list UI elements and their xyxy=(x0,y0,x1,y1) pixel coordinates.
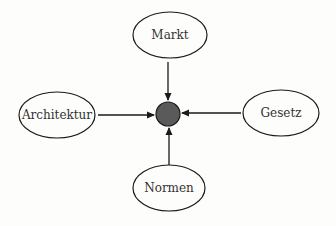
node-architektur: Architektur xyxy=(19,92,95,138)
node-normen: Normen xyxy=(133,165,205,211)
node-label: Architektur xyxy=(21,108,92,122)
node-label: Normen xyxy=(144,181,194,195)
center-node xyxy=(156,102,180,126)
influence-diagram: MarktArchitekturGesetzNormen xyxy=(0,0,336,226)
node-label: Gesetz xyxy=(260,106,301,120)
node-gesetz: Gesetz xyxy=(243,90,319,136)
node-markt: Markt xyxy=(133,12,207,58)
node-label: Markt xyxy=(151,28,188,42)
